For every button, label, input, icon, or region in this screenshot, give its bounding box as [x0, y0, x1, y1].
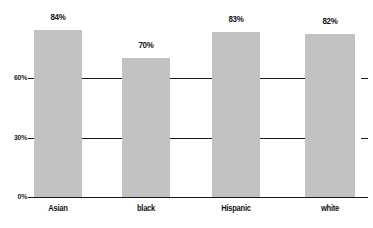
y-tick-label-30: 30%: [5, 133, 27, 142]
bar-asian: [34, 30, 82, 197]
y-tick-mark-30-right: [361, 138, 368, 139]
plot-area: 60% 30% 0% 84% 70% 83% 82% Asian black H…: [0, 0, 373, 228]
x-axis-baseline: [29, 197, 368, 198]
bar-chart: 60% 30% 0% 84% 70% 83% 82% Asian black H…: [0, 0, 373, 228]
value-label-white: 82%: [309, 16, 351, 26]
bar-white: [305, 34, 355, 197]
value-label-black: 70%: [126, 40, 166, 50]
value-label-hispanic: 83%: [216, 14, 256, 24]
category-label-asian: Asian: [29, 203, 86, 213]
y-tick-label-0: 0%: [5, 192, 27, 201]
value-label-asian: 84%: [38, 12, 78, 22]
category-label-white: white: [301, 203, 358, 213]
y-tick-label-60: 60%: [5, 73, 27, 82]
y-tick-mark-60-right: [361, 78, 368, 79]
category-label-black: black: [117, 203, 174, 213]
bar-black: [122, 58, 170, 197]
category-label-hispanic: Hispanic: [207, 203, 264, 213]
bar-hispanic: [212, 32, 260, 197]
